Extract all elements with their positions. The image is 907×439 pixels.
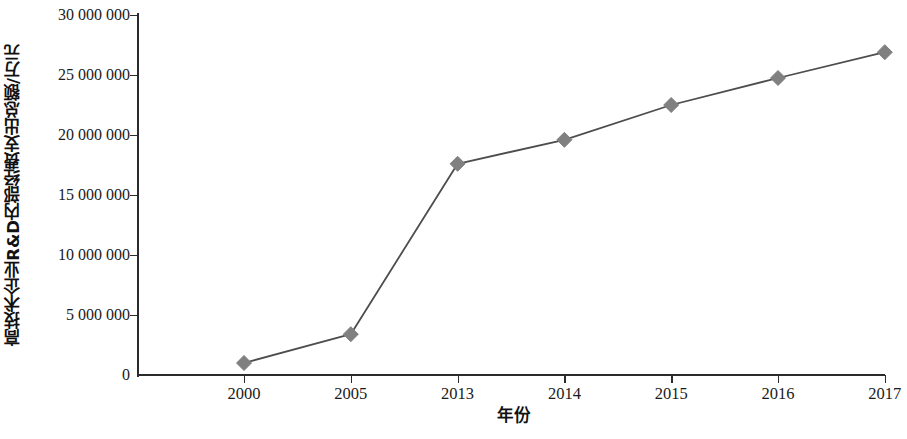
y-axis-title-text: 高技术企业R&D内部经费支出总额/万元 <box>6 44 23 346</box>
x-tick-label: 2016 <box>762 386 795 403</box>
y-tick-mark <box>130 195 138 196</box>
y-axis-title: 高技术企业R&D内部经费支出总额/万元 <box>0 0 28 390</box>
x-axis-line <box>137 374 885 376</box>
x-tick-label: 2005 <box>334 386 367 403</box>
data-point-marker <box>237 356 252 371</box>
y-tick-mark <box>130 255 138 256</box>
y-tick-mark <box>130 15 138 16</box>
y-tick-label: 20 000 000 <box>28 127 130 143</box>
y-tick-label: 10 000 000 <box>28 247 130 263</box>
data-point-marker <box>450 156 465 171</box>
x-tick-mark <box>244 375 245 383</box>
x-tick-label: 2015 <box>655 386 688 403</box>
data-point-marker <box>771 71 786 86</box>
x-tick-label: 2013 <box>441 386 474 403</box>
line-chart: 高技术企业R&D内部经费支出总额/万元 05 000 00010 000 000… <box>0 0 907 439</box>
y-axis-tick-labels: 05 000 00010 000 00015 000 00020 000 000… <box>28 0 130 439</box>
x-axis-title: 年份 <box>0 408 907 425</box>
x-axis-title-text: 年份 <box>497 408 531 425</box>
y-tick-label: 15 000 000 <box>28 187 130 203</box>
series-line <box>244 52 885 363</box>
data-point-marker <box>877 45 892 60</box>
y-tick-label: 0 <box>28 367 130 383</box>
y-tick-mark <box>130 315 138 316</box>
y-tick-label: 25 000 000 <box>28 67 130 83</box>
data-point-marker <box>664 98 679 113</box>
x-tick-label: 2014 <box>548 386 581 403</box>
x-tick-mark <box>351 375 352 383</box>
x-tick-mark <box>564 375 565 383</box>
x-tick-mark <box>885 375 886 383</box>
y-tick-mark <box>130 75 138 76</box>
x-tick-mark <box>778 375 779 383</box>
x-tick-label: 2017 <box>868 386 901 403</box>
x-tick-mark <box>671 375 672 383</box>
series-markers <box>237 45 893 371</box>
y-tick-label: 5 000 000 <box>28 307 130 323</box>
data-point-marker <box>343 327 358 342</box>
x-tick-label: 2000 <box>228 386 261 403</box>
data-point-marker <box>557 132 572 147</box>
y-tick-mark <box>130 135 138 136</box>
x-tick-mark <box>458 375 459 383</box>
y-tick-label: 30 000 000 <box>28 7 130 23</box>
